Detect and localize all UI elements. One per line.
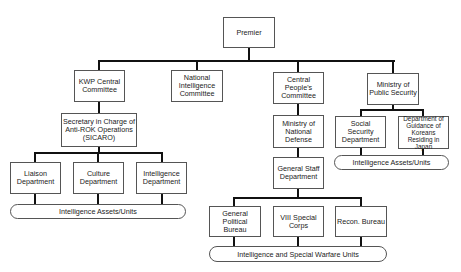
node-ministry-national-defense: Ministry of National Defense — [273, 115, 324, 148]
node-general-political-bureau: General Political Bureau — [209, 206, 261, 237]
group-intelligence-assets-right: Intelligence Assets/Units — [334, 155, 449, 170]
node-central-peoples-committee: Central People's Committee — [273, 72, 324, 104]
connector — [34, 193, 36, 204]
node-culture-department: Culture Department — [73, 162, 124, 194]
connector — [392, 60, 394, 73]
group-intelligence-assets-left: Intelligence Assets/Units — [10, 204, 186, 219]
node-kwp-central-committee: KWP Central Committee — [74, 70, 125, 102]
connector — [360, 109, 362, 116]
connector — [98, 60, 395, 62]
connector — [97, 193, 99, 204]
node-liaison-department: Liaison Department — [10, 162, 61, 194]
connector — [297, 147, 299, 157]
node-intelligence-department: Intelligence Department — [136, 162, 187, 194]
connector — [233, 197, 362, 199]
node-social-security-department: Social Security Department — [335, 116, 386, 148]
connector — [360, 109, 424, 111]
node-national-intelligence-committee: National Intelligence Committee — [171, 70, 223, 102]
connector — [248, 47, 250, 61]
node-ministry-public-security: Ministry of Public Security — [367, 73, 419, 105]
node-sicaro: Secretary in Charge of Anti-ROK Operatio… — [61, 113, 137, 147]
connector — [98, 60, 100, 70]
connector — [196, 60, 198, 70]
connector — [297, 60, 299, 72]
node-recon-bureau: Recon. Bureau — [335, 206, 387, 237]
connector — [297, 236, 299, 246]
node-premier: Premier — [223, 17, 275, 48]
connector — [297, 103, 299, 115]
node-viii-special-corps: VIII Special Corps — [273, 206, 324, 237]
node-general-staff-department: General Staff Department — [273, 157, 324, 189]
connector — [34, 152, 36, 162]
connector — [360, 197, 362, 206]
connector — [233, 197, 235, 206]
connector — [97, 152, 99, 162]
connector — [360, 236, 362, 246]
node-dept-guidance-koreans-japan: Department of Guidance of Koreans Residi… — [398, 116, 449, 149]
connector — [98, 101, 100, 113]
connector — [360, 147, 362, 155]
connector — [233, 236, 235, 246]
connector — [161, 152, 163, 162]
connector — [161, 193, 163, 204]
group-intelligence-special-warfare-units: Intelligence and Special Warfare Units — [209, 246, 387, 262]
